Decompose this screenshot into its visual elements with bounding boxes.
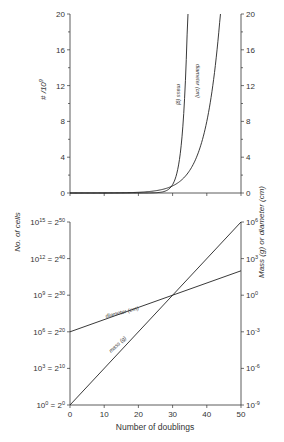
bottom-right-tick-label: 10-3 (246, 327, 260, 337)
top-diameter-curve (70, 14, 220, 193)
bottom-x-ticks: 01020304050 (68, 405, 246, 419)
bottom-right-tick-label: 100 (246, 290, 258, 300)
bottom-left-tick-label: 1015 = 250 (30, 217, 65, 227)
top-mass-label: mass (g) (176, 84, 182, 106)
top-mass-curve (70, 14, 188, 193)
bottom-x-tick-label: 0 (68, 410, 73, 419)
bottom-x-tick-label: 40 (202, 410, 211, 419)
top-left-tick-label: 16 (56, 46, 65, 55)
top-right-tick-label: 0 (246, 189, 251, 198)
top-right-tick-label: 12 (246, 82, 255, 91)
top-left-tick-label: 0 (61, 189, 66, 198)
top-left-tick-label: 8 (61, 117, 66, 126)
right-axis-title: Mass (g) or diameter (cm) (257, 186, 266, 278)
bottom-left-tick-label: 103 = 210 (33, 363, 65, 373)
bottom-mass-line (70, 222, 241, 405)
top-right-tick-label: 4 (246, 153, 251, 162)
bottom-mass-label: mass (g) (108, 335, 128, 354)
left-axis-title: No. of cells (13, 212, 22, 252)
bottom-x-tick-label: 10 (100, 410, 109, 419)
top-right-ticks: 048121620 (241, 10, 255, 198)
bottom-right-tick-label: 10-6 (246, 363, 260, 373)
bottom-diameter-label: diameter (cm) (105, 305, 140, 319)
bottom-x-tick-label: 30 (168, 410, 177, 419)
bottom-left-tick-label: 109 = 230 (33, 290, 65, 300)
bottom-left-tick-label: 100 = 20 (36, 400, 65, 410)
top-ylabel: # /109 (38, 79, 48, 100)
top-left-tick-label: 12 (56, 82, 65, 91)
top-left-ticks: 048121620 (56, 10, 70, 198)
bottom-chart: 100 = 20103 = 210106 = 220109 = 2301012 … (30, 217, 260, 432)
bottom-diameter-line (70, 271, 241, 332)
top-left-tick-label: 4 (61, 153, 66, 162)
figure: 048121620 048121620 mass (g) diameter (c… (0, 0, 284, 442)
top-diameter-label: diameter (cm) (195, 64, 201, 98)
x-axis-title: Number of doublings (116, 422, 194, 432)
top-chart: 048121620 048121620 mass (g) diameter (c… (38, 10, 255, 198)
top-right-tick-label: 8 (246, 117, 251, 126)
bottom-left-ticks: 100 = 20103 = 210106 = 220109 = 2301012 … (30, 217, 70, 410)
top-left-tick-label: 20 (56, 10, 65, 19)
bottom-x-tick-label: 20 (134, 410, 143, 419)
bottom-x-tick-label: 50 (237, 410, 246, 419)
bottom-left-tick-label: 1012 = 240 (30, 254, 65, 264)
top-right-tick-label: 20 (246, 10, 255, 19)
bottom-left-tick-label: 106 = 220 (33, 327, 65, 337)
bottom-right-tick-label: 10-9 (246, 400, 260, 410)
top-right-tick-label: 16 (246, 46, 255, 55)
